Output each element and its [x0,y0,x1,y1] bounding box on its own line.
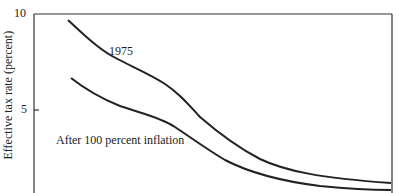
y-tick-label-5: 5 [21,102,27,117]
line-chart [0,0,406,193]
y-axis-label: Effective tax rate (percent) [1,40,16,160]
series-label-inflation: After 100 percent inflation [56,133,184,148]
y-tick-label-10: 10 [14,6,26,21]
plot-frame [34,14,392,193]
series-label-1975: 1975 [109,44,133,59]
